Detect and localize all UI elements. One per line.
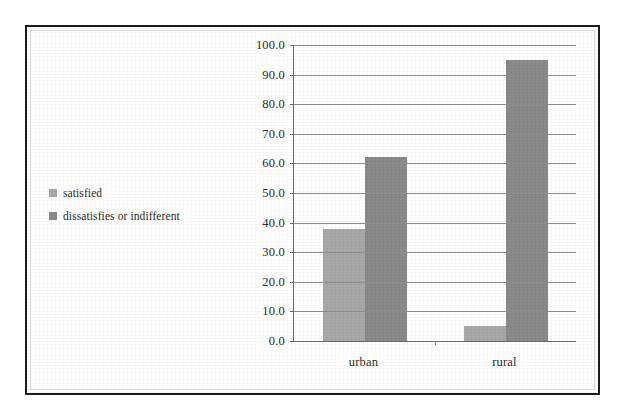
y-tick-mark	[290, 252, 294, 253]
legend-label-satisfied: satisfied	[63, 187, 102, 199]
legend-swatch-dissatisfied	[49, 212, 57, 220]
y-tick-mark	[290, 45, 294, 46]
x-tick-label-urban: urban	[349, 355, 378, 370]
gridline	[294, 45, 576, 46]
bar-rural-dissatisfies	[506, 60, 548, 341]
y-tick-mark	[290, 282, 294, 283]
bar-rural-satisfied	[464, 326, 506, 341]
gridline	[294, 282, 576, 283]
y-tick-mark	[290, 341, 294, 342]
y-tick-label: 90.0	[262, 67, 285, 82]
y-tick-label: 60.0	[262, 156, 285, 171]
plot-area	[293, 45, 576, 342]
y-tick-label: 70.0	[262, 126, 285, 141]
gridline	[294, 134, 576, 135]
gridline	[294, 163, 576, 164]
legend-item: satisfied	[49, 187, 249, 199]
bar-urban-dissatisfies	[365, 157, 407, 341]
y-tick-label: 30.0	[262, 245, 285, 260]
gridline	[294, 75, 576, 76]
y-tick-mark	[290, 104, 294, 105]
y-tick-mark	[290, 134, 294, 135]
y-axis-tick-labels: 100.090.080.070.060.050.040.030.020.010.…	[237, 45, 289, 341]
y-tick-mark	[290, 311, 294, 312]
x-tick-label-rural: rural	[492, 355, 517, 370]
gridline	[294, 104, 576, 105]
chart-page: satisfied dissatisfies or indifferent 10…	[0, 0, 634, 412]
bar-urban-satisfied	[323, 229, 365, 341]
y-tick-label: 80.0	[262, 97, 285, 112]
legend-swatch-satisfied	[49, 189, 57, 197]
gridline	[294, 252, 576, 253]
y-tick-label: 10.0	[262, 304, 285, 319]
figure-frame: satisfied dissatisfies or indifferent 10…	[25, 25, 600, 395]
gridline	[294, 193, 576, 194]
chart-legend: satisfied dissatisfies or indifferent	[49, 187, 249, 233]
gridline	[294, 311, 576, 312]
y-tick-label: 40.0	[262, 215, 285, 230]
legend-label-dissatisfied: dissatisfies or indifferent	[63, 210, 180, 222]
y-tick-label: 0.0	[269, 334, 285, 349]
y-tick-mark	[290, 163, 294, 164]
x-axis-tick-labels: urbanrural	[293, 345, 575, 371]
y-tick-mark	[290, 223, 294, 224]
y-tick-label: 20.0	[262, 274, 285, 289]
gridline	[294, 223, 576, 224]
legend-item: dissatisfies or indifferent	[49, 210, 249, 222]
y-tick-mark	[290, 75, 294, 76]
plot-wrapper: 100.090.080.070.060.050.040.030.020.010.…	[237, 45, 577, 375]
y-tick-mark	[290, 193, 294, 194]
y-tick-label: 50.0	[262, 186, 285, 201]
y-tick-label: 100.0	[256, 38, 285, 53]
